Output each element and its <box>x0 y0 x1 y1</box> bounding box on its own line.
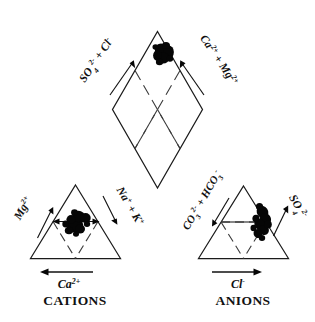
diamond-dashed-lower-left <box>135 110 158 149</box>
diamond-right-axis-label: Ca2+ + Mg2+ <box>197 32 241 88</box>
cations-right-axis-arrow <box>103 196 117 225</box>
cations-left-axis-label: Mg2+ <box>10 194 35 223</box>
anions-right-axis-arrow <box>274 206 289 236</box>
cations-bottom-axis-arrow <box>40 268 93 275</box>
diamond-dashed-lower-right <box>158 110 181 149</box>
cations-data-cluster <box>62 209 90 237</box>
anions-triangle: CO32- + HCO3- SO42- Cl- ANIONS <box>180 168 312 308</box>
svg-text:Na+ + K+: Na+ + K+ <box>114 183 148 228</box>
anions-left-label-hco3-sup: - <box>212 168 220 175</box>
diamond-left-label-plus-cl: + Cl <box>90 37 113 64</box>
anions-panel-title: ANIONS <box>216 293 271 308</box>
cations-triangle: Mg2+ Na+ + K+ Ca2+ CATIONS <box>10 183 148 308</box>
cations-panel-title: CATIONS <box>43 293 106 308</box>
diamond-left-axis-label: SO42- + Cl- <box>75 34 118 86</box>
svg-text:SO42- + Cl-: SO42- + Cl- <box>75 34 118 86</box>
cations-bottom-axis-label: Ca2+ <box>58 277 81 292</box>
cations-right-axis-label: Na+ + K+ <box>114 183 148 228</box>
anions-dashed-left-v <box>221 222 244 259</box>
anions-right-label-so4: SO <box>287 192 305 211</box>
diamond-data-cluster <box>153 42 174 65</box>
anions-bottom-label-cl: Cl <box>231 277 243 291</box>
anions-bottom-axis-label: Cl- <box>231 277 245 292</box>
svg-text:Ca2+ + Mg2+: Ca2+ + Mg2+ <box>197 32 241 88</box>
piper-diagram-canvas: SO42- + Cl- Ca2+ + Mg2+ <box>0 0 315 322</box>
central-diamond-field: SO42- + Cl- Ca2+ + Mg2+ <box>75 32 241 189</box>
cations-bottom-label-ca-sup: 2+ <box>71 277 81 286</box>
anions-bottom-label-cl-sup: - <box>242 277 245 286</box>
anions-right-label-so4-sup: 2- <box>300 207 312 218</box>
anions-bottom-axis-arrow <box>212 268 262 275</box>
piper-diagram-figure: SO42- + Cl- Ca2+ + Mg2+ <box>0 0 315 322</box>
svg-text:Mg2+: Mg2+ <box>10 194 35 223</box>
anions-left-label-plus-hco3: + HCO <box>192 173 220 210</box>
cations-left-label-mg: Mg <box>11 201 31 222</box>
cations-bottom-label-ca: Ca <box>58 277 72 291</box>
